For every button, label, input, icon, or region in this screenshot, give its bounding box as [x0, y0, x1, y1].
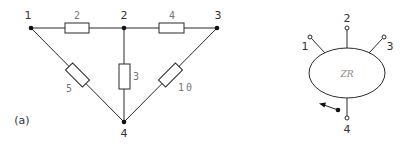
- resistor-3-4-value: 10: [178, 82, 194, 93]
- resistor-1-2: [65, 23, 89, 33]
- figure-label: (a): [14, 114, 29, 127]
- terminal-3-label: 3: [387, 40, 394, 53]
- zr-block-label: ZR: [339, 69, 353, 79]
- resistor-1-4-value: 5: [66, 83, 72, 94]
- terminal-2-label: 2: [344, 12, 351, 25]
- terminal-3: [382, 35, 386, 39]
- left-network: 1 2 3 4 2 4 3 5 10 (a): [14, 9, 221, 140]
- terminal-4-label: 4: [344, 123, 351, 136]
- node-1-label: 1: [25, 9, 32, 22]
- right-network: ZR 2 1 3 4: [302, 12, 394, 136]
- resistor-2-3: [159, 23, 184, 33]
- node-4-label: 4: [121, 127, 128, 140]
- node-3-label: 3: [215, 9, 222, 22]
- resistor-2-4: [119, 64, 130, 89]
- reference-arrow-icon: [319, 103, 340, 113]
- terminal-3-lead: [369, 39, 383, 54]
- terminal-4: [345, 116, 349, 120]
- node-2-label: 2: [121, 9, 128, 22]
- resistor-1-2-value: 2: [74, 10, 80, 21]
- terminal-1-label: 1: [302, 40, 309, 53]
- node-1: [29, 26, 34, 31]
- diagram-canvas: 1 2 3 4 2 4 3 5 10 (a) ZR 2 1 3 4: [0, 0, 409, 146]
- terminal-1-lead: [312, 39, 326, 54]
- terminal-1: [308, 35, 312, 39]
- resistor-2-4-value: 3: [133, 71, 139, 82]
- node-4: [122, 120, 127, 125]
- node-2: [122, 26, 127, 31]
- node-3: [215, 26, 220, 31]
- terminal-2: [345, 26, 349, 30]
- resistor-2-3-value: 4: [169, 10, 175, 21]
